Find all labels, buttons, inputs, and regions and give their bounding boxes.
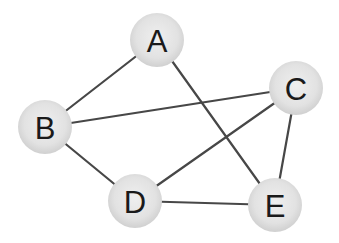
node-e: E [248,178,302,232]
edge-b-c [45,88,296,127]
node-label: E [265,189,286,224]
node-a: A [130,13,184,67]
node-c: C [269,61,323,115]
node-label: A [147,24,168,59]
node-label: C [285,72,307,107]
nodes-group: ABCDE [18,13,323,232]
node-d: D [108,174,162,228]
edge-a-e [157,40,275,205]
edges-group [45,40,296,205]
node-label: D [124,185,146,220]
graph-diagram: ABCDE [0,0,339,243]
node-label: B [35,111,56,146]
node-b: B [18,100,72,154]
